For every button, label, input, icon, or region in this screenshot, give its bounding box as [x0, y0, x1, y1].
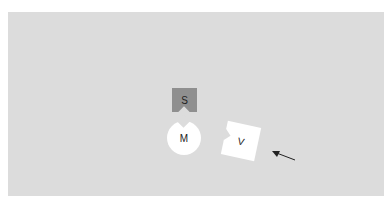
- piece-m-label: M: [180, 133, 188, 144]
- piece-s-label: S: [181, 95, 188, 106]
- arrow-icon: [8, 12, 384, 196]
- game-board: S M V: [8, 12, 384, 196]
